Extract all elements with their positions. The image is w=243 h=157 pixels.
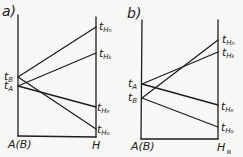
panel-a-line-tA-tHe [18,86,96,107]
panel-b-right-axis-label: H [217,142,225,153]
panel-a-left-point-tA: tA [4,80,13,95]
panel-a-bottom-axis [18,136,96,137]
panel-a-right-point-tHn: tHn [99,21,112,36]
panel-a-label: a) [2,4,16,18]
panel-b-line-tB-tHn [142,40,218,98]
diagram-lines [0,0,243,157]
panel-b-line-tA-tHk [142,52,218,84]
panel-a-left-axis-label: A(B) [8,139,32,150]
panel-b-label: b) [127,6,141,20]
panel-a-right-point-tHe: tHe [97,102,110,117]
temperature-diagram: a) tB tA tHn tHk tHe tHo A(B) H b) tA tB… [0,0,243,157]
panel-a-right-point-tHk: tHk [99,48,112,63]
panel-a-right-point-tHo: tHo [97,124,110,139]
panel-b-left-point-tB: tB [128,92,137,107]
panel-b-right-point-tHo: tHo [221,122,234,137]
panel-b-right-point-tHk: tHk [222,47,235,62]
panel-a-line-tB-tHo [18,77,96,129]
panel-b-right-point-tHe: tHe [221,101,234,116]
panel-b-left-axis-label: A(B) [131,141,155,152]
panel-a-right-axis-label: H [92,140,100,151]
corner-mark [227,150,231,154]
panel-b-left-axis [141,20,142,139]
